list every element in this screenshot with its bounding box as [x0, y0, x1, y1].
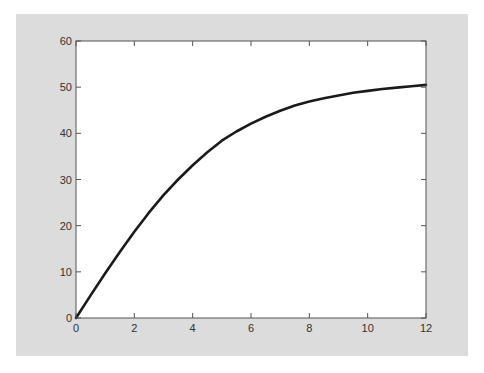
- y-tick-label: 20: [60, 220, 72, 232]
- x-tick-label: 2: [131, 322, 137, 334]
- x-tick-label: 6: [248, 322, 254, 334]
- x-tick-label: 0: [73, 322, 79, 334]
- x-tick-label: 8: [306, 322, 312, 334]
- y-tick-label: 30: [60, 174, 72, 186]
- chart-figure: 0246810120102030405060: [16, 14, 468, 356]
- plot-area: [76, 41, 426, 318]
- y-tick-label: 50: [60, 81, 72, 93]
- y-tick-label: 40: [60, 127, 72, 139]
- x-tick-label: 4: [190, 322, 196, 334]
- line-chart: 0246810120102030405060: [16, 14, 468, 356]
- y-tick-label: 60: [60, 35, 72, 47]
- y-tick-label: 10: [60, 266, 72, 278]
- y-tick-label: 0: [66, 312, 72, 324]
- x-tick-label: 10: [362, 322, 374, 334]
- x-tick-label: 12: [420, 322, 432, 334]
